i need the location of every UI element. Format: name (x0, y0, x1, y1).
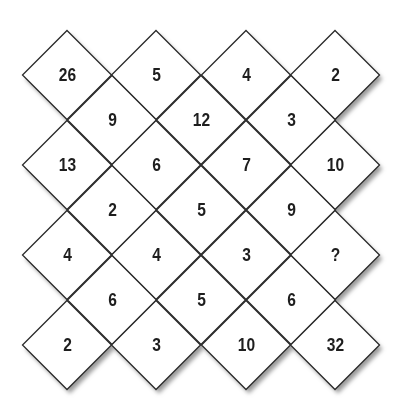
number-cell: 3 (112, 301, 201, 390)
number-cell: 10 (202, 301, 291, 390)
cell-value: 32 (299, 301, 372, 390)
number-cell: 32 (291, 301, 380, 390)
cell-value: 3 (120, 301, 193, 390)
cell-value: 2 (31, 301, 104, 390)
cell-value: 10 (210, 301, 283, 390)
number-cell: 2 (23, 301, 112, 390)
diamond-puzzle-board: 265429123136710259443?656231032 (0, 0, 405, 414)
